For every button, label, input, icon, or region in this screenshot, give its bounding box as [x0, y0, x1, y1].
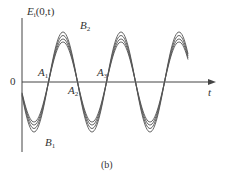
label-a1: A1 — [38, 66, 48, 80]
x-axis-label: t — [208, 86, 211, 98]
label-a3: A3 — [97, 66, 107, 80]
label-b1: B1 — [45, 136, 55, 150]
waveform-plot — [0, 0, 225, 183]
origin-label: 0 — [10, 75, 16, 87]
label-b2: B2 — [80, 19, 90, 33]
y-axis-label: Ei(0,t) — [27, 5, 54, 19]
label-a2: A2 — [68, 84, 78, 98]
x-axis-arrow-icon — [208, 79, 216, 85]
figure-caption: (b) — [101, 159, 113, 170]
